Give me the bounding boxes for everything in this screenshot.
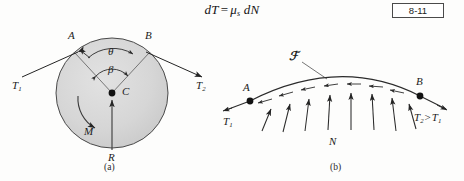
- belt-tension-arrow-t2: [437, 105, 447, 110]
- caption-figure-b: (b): [330, 162, 341, 172]
- label-friction-script-f: ℱ: [289, 50, 298, 62]
- label-normal-force-n: N: [329, 136, 336, 147]
- friction-arrows: [258, 84, 404, 103]
- center-point-c: [109, 90, 116, 97]
- label-tension-t1-fig-a: T1: [12, 80, 22, 93]
- label-center-c: C: [122, 86, 129, 97]
- belt-point-a: [247, 98, 254, 105]
- label-tension-t1-fig-b: T1: [223, 116, 233, 129]
- caption-figure-a: (a): [104, 162, 115, 172]
- figure-page: dT=μs dN 8-11: [0, 0, 464, 181]
- figure-graphics: [0, 0, 464, 181]
- label-tension-comparison-fig-b: T2>T1: [414, 112, 441, 125]
- label-angle-theta: θ: [108, 46, 113, 57]
- label-angle-beta: β: [108, 64, 113, 75]
- label-point-a-fig-b: A: [243, 82, 250, 93]
- label-moment-m: M: [84, 126, 93, 137]
- friction-leader-line: [302, 62, 327, 79]
- label-point-b-fig-b: B: [416, 76, 423, 87]
- belt-arc: [250, 77, 420, 101]
- normal-force-arrows: [262, 93, 416, 132]
- belt-tension-arrow-t1: [223, 108, 232, 111]
- belt-point-b: [417, 93, 424, 100]
- label-tension-t2-fig-a: T2: [196, 80, 206, 93]
- label-point-b-fig-a: B: [145, 30, 152, 41]
- label-point-a-fig-a: A: [68, 30, 75, 41]
